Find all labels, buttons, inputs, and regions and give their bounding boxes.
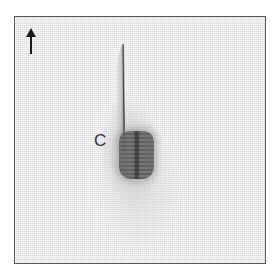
panel-label: C [94,132,106,149]
specimen-blob [119,131,154,179]
figure-panel: C [14,16,266,264]
up-arrow-icon [26,28,36,54]
